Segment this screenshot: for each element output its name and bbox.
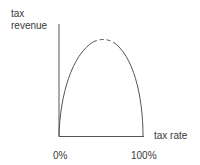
x-tick-0: 0% — [53, 150, 67, 161]
x-axis-label: tax rate — [154, 130, 187, 141]
curve-left — [59, 42, 93, 136]
curve-right — [113, 42, 143, 136]
x-tick-100: 100% — [131, 150, 157, 161]
curve-peak-dashed — [93, 40, 113, 43]
